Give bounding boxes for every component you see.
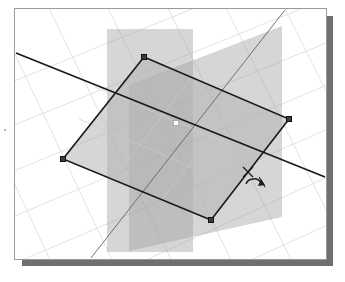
corner-grip-top[interactable] — [141, 54, 147, 60]
corner-grip-right[interactable] — [286, 116, 292, 122]
center-grip[interactable] — [174, 121, 179, 126]
stray-mark — [4, 129, 6, 131]
corner-grip-left[interactable] — [60, 156, 66, 162]
perspective-viewport[interactable]: 3D Modeling Viewport — [14, 8, 327, 260]
screenshot-root: 3D Modeling Viewport — [0, 0, 345, 282]
viewport-canvas[interactable] — [15, 9, 326, 259]
corner-grip-bottom[interactable] — [208, 217, 214, 223]
